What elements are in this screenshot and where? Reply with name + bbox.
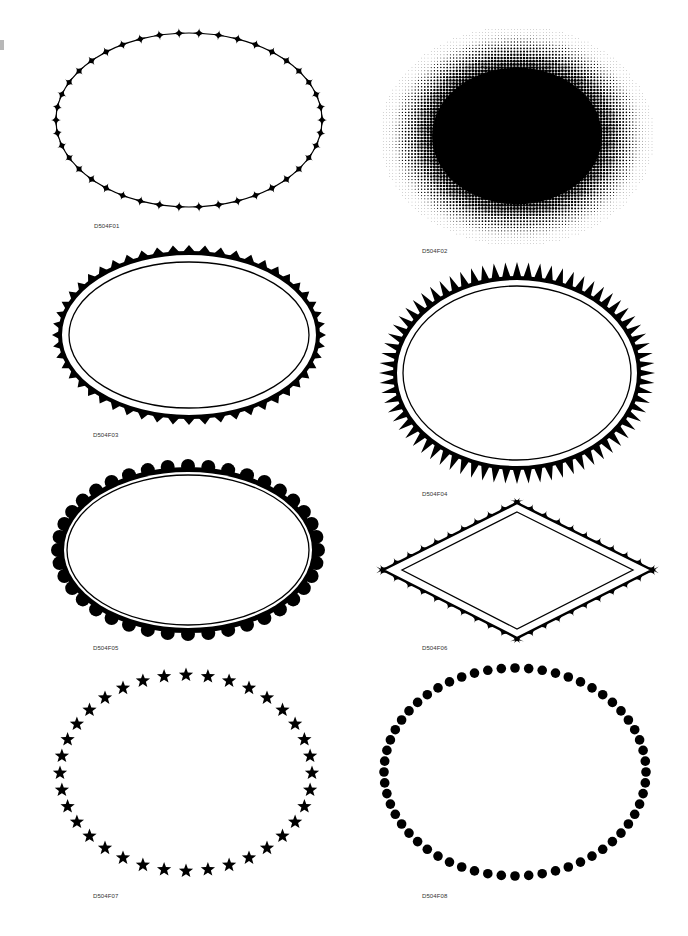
halftone-dot	[565, 54, 567, 56]
halftone-dot	[551, 75, 555, 79]
halftone-dot	[511, 41, 512, 42]
halftone-dot	[421, 102, 423, 104]
halftone-dot	[411, 176, 412, 177]
halftone-dot	[527, 29, 528, 30]
halftone-dot	[430, 108, 433, 111]
halftone-dot	[594, 67, 595, 68]
halftone-dot	[412, 67, 413, 68]
dot	[587, 851, 597, 861]
halftone-dot	[487, 63, 490, 66]
halftone-dot	[574, 211, 576, 213]
halftone-dot	[530, 243, 531, 244]
halftone-dot	[417, 172, 419, 174]
halftone-dot	[604, 67, 605, 68]
halftone-dot	[533, 48, 535, 50]
halftone-dot	[500, 60, 503, 63]
halftone-dot	[471, 79, 475, 83]
halftone-dot	[411, 93, 412, 94]
halftone-dot	[503, 69, 507, 73]
halftone-dot	[466, 221, 467, 222]
halftone-dot	[510, 54, 512, 56]
halftone-dot	[456, 198, 459, 201]
halftone-dot	[393, 160, 394, 161]
halftone-dot	[504, 227, 505, 228]
halftone-dot	[481, 214, 483, 216]
halftone-dot	[569, 234, 570, 235]
halftone-dot	[468, 82, 472, 86]
halftone-dot	[548, 194, 552, 198]
halftone-dot	[604, 215, 605, 216]
halftone-dot	[440, 67, 442, 69]
halftone-dot	[439, 178, 442, 181]
scallop	[181, 627, 195, 641]
halftone-dot	[548, 63, 551, 66]
halftone-dot	[613, 77, 614, 78]
halftone-dot	[629, 173, 630, 174]
halftone-dot	[468, 79, 472, 83]
halftone-dot	[433, 169, 436, 172]
halftone-dot	[610, 182, 612, 184]
halftone-dot	[462, 214, 464, 216]
halftone-dot	[616, 172, 618, 174]
halftone-dot	[430, 117, 433, 120]
halftone-dot	[645, 151, 646, 152]
halftone-dot	[546, 38, 547, 39]
halftone-dot	[562, 237, 563, 238]
halftone-dot	[402, 192, 403, 193]
halftone-dot	[408, 182, 409, 183]
halftone-dot	[491, 227, 492, 228]
halftone-dot	[514, 38, 515, 39]
halftone-dot	[596, 86, 598, 88]
halftone-dot	[497, 204, 500, 207]
diamond-bead	[193, 28, 205, 39]
halftone-dot	[580, 95, 584, 99]
halftone-dot	[537, 243, 538, 244]
halftone-dot	[446, 82, 449, 85]
halftone-dot	[622, 105, 624, 107]
halftone-dot	[452, 91, 456, 95]
halftone-dot	[558, 214, 560, 216]
halftone-dot	[610, 83, 612, 85]
halftone-dot	[430, 95, 433, 98]
halftone-dot	[434, 64, 435, 65]
halftone-dot	[430, 80, 432, 82]
halftone-dot	[567, 201, 570, 204]
dot	[587, 683, 597, 693]
halftone-dot	[559, 230, 560, 231]
halftone-dot	[511, 230, 512, 231]
halftone-dot	[596, 152, 600, 156]
halftone-dot	[457, 45, 458, 46]
halftone-dot	[587, 85, 590, 88]
star-icon	[98, 841, 112, 855]
halftone-dot	[639, 93, 640, 94]
halftone-dot	[453, 48, 454, 49]
halftone-dot	[613, 102, 615, 104]
halftone-dot	[427, 111, 430, 114]
halftone-dot	[578, 51, 579, 52]
halftone-dot	[462, 211, 464, 213]
frame-d504f05	[51, 459, 325, 641]
halftone-dot	[642, 176, 643, 177]
halftone-dot	[591, 214, 592, 215]
halftone-dot	[578, 227, 579, 228]
halftone-dot	[580, 181, 583, 184]
halftone-dot	[555, 57, 557, 59]
halftone-dot	[626, 169, 627, 170]
halftone-dot	[420, 146, 423, 149]
halftone-dot	[482, 35, 483, 36]
halftone-dot	[495, 240, 496, 241]
halftone-dot	[553, 35, 554, 36]
halftone-dot	[469, 39, 470, 40]
halftone-dot	[649, 109, 650, 110]
halftone-dot	[596, 139, 600, 143]
halftone-dot	[520, 214, 523, 217]
halftone-dot	[481, 217, 483, 219]
scallop	[309, 530, 323, 544]
halftone-dot	[475, 45, 476, 46]
halftone-dot	[465, 211, 467, 213]
halftone-dot	[383, 125, 384, 126]
halftone-dot	[629, 195, 630, 196]
halftone-dot	[423, 146, 426, 149]
halftone-dot	[616, 179, 618, 181]
halftone-dot	[645, 163, 646, 164]
